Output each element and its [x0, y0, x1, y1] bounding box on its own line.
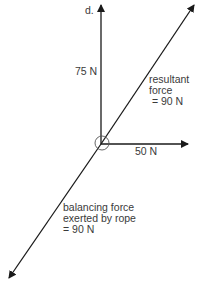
label-resultant-force: resultant force = 90 N: [149, 74, 189, 107]
label-horizontal-force: 50 N: [135, 146, 157, 157]
label-vertical-force: 75 N: [75, 66, 97, 77]
label-d: d.: [85, 5, 94, 16]
label-balancing-force: balancing force exerted by rope = 90 N: [63, 202, 136, 235]
force-diagram: [0, 0, 208, 283]
